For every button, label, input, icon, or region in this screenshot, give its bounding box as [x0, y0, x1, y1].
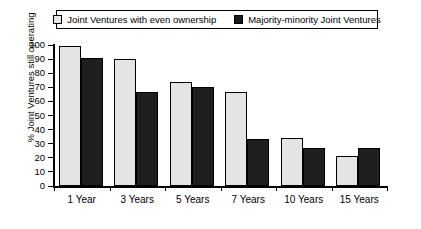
x-tick-label: 5 Years	[165, 194, 221, 205]
plot-area	[53, 45, 386, 186]
y-tick-label: 30	[34, 139, 45, 149]
x-tick-mark	[54, 187, 55, 191]
x-tick-label: 7 Years	[221, 194, 277, 205]
x-tick-label: 15 Years	[332, 194, 388, 205]
y-tick-label: 40	[34, 125, 45, 135]
chart-legend: Joint Ventures with even ownership Major…	[56, 10, 378, 29]
bar-even-ownership	[170, 82, 192, 186]
y-tick-label: 90	[34, 54, 45, 64]
x-tick-label: 10 Years	[276, 194, 332, 205]
bar-majority-minority	[136, 92, 158, 186]
x-tick-mark	[221, 187, 222, 191]
bar-majority-minority	[192, 87, 214, 186]
bar-even-ownership	[225, 92, 247, 186]
bar-majority-minority	[247, 139, 269, 186]
legend-item-majority-minority: Majority-minority Joint Ventures	[234, 15, 381, 25]
x-tick-label: 3 Years	[110, 194, 166, 205]
x-tick-mark	[110, 187, 111, 191]
legend-label-even-ownership: Joint Ventures with even ownership	[67, 15, 216, 25]
bar-even-ownership	[281, 138, 303, 186]
y-tick-label: 60	[34, 96, 45, 106]
x-tick-mark	[276, 187, 277, 191]
bar-majority-minority	[358, 148, 380, 186]
y-tick-label: 20	[34, 153, 45, 163]
legend-swatch-dark-icon	[234, 15, 243, 24]
bar-even-ownership	[336, 156, 358, 186]
legend-swatch-light-icon	[53, 15, 62, 24]
x-tick-mark	[387, 187, 388, 191]
bar-majority-minority	[303, 148, 325, 186]
y-tick-label: 70	[34, 82, 45, 92]
legend-label-majority-minority: Majority-minority Joint Ventures	[248, 15, 381, 25]
y-tick-label: 100	[29, 40, 45, 50]
bar-even-ownership	[59, 46, 81, 186]
x-tick-label: 1 Year	[54, 194, 110, 205]
y-tick-label: 80	[34, 68, 45, 78]
y-tick-label: 0	[40, 181, 45, 191]
bar-chart: Joint Ventures with even ownership Major…	[0, 0, 421, 229]
bar-majority-minority	[81, 58, 103, 186]
legend-item-even-ownership: Joint Ventures with even ownership	[53, 15, 216, 25]
bar-even-ownership	[114, 59, 136, 186]
x-tick-mark	[165, 187, 166, 191]
y-tick-label: 50	[34, 111, 45, 121]
y-tick-label: 10	[34, 167, 45, 177]
x-tick-mark	[332, 187, 333, 191]
